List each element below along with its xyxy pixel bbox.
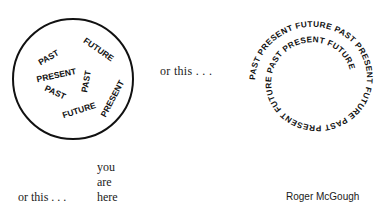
you-are-here-stack: you are here	[97, 160, 118, 205]
or-this-caption-2: or this . . .	[18, 190, 66, 205]
spiral-text: PAST PRESENT FUTURE PAST PRESENT FUTURE …	[248, 20, 374, 133]
or-this-caption-1: or this . . .	[160, 64, 212, 79]
circle-word-future: FUTURE	[82, 36, 116, 64]
circle-word-future: FUTURE	[61, 100, 97, 120]
stack-line-you: you	[97, 160, 118, 175]
circle-word-past: PAST	[36, 47, 61, 67]
circle-figure: PASTFUTUREPRESENTPASTPASTFUTUREPRESENT	[0, 0, 150, 150]
circle-word-past: PAST	[43, 83, 68, 102]
spiral-figure: PAST PRESENT FUTURE PAST PRESENT FUTURE …	[240, 0, 382, 150]
author-credit: Roger McGough	[286, 191, 359, 202]
svg-text:PAST PRESENT FUTURE PAST PRESE: PAST PRESENT FUTURE PAST PRESENT FUTURE …	[248, 20, 374, 133]
stack-line-here: here	[97, 190, 118, 205]
stack-line-are: are	[97, 175, 118, 190]
circle-outline	[13, 19, 133, 139]
circle-word-present: PRESENT	[36, 66, 78, 84]
circle-word-past: PAST	[79, 69, 93, 93]
